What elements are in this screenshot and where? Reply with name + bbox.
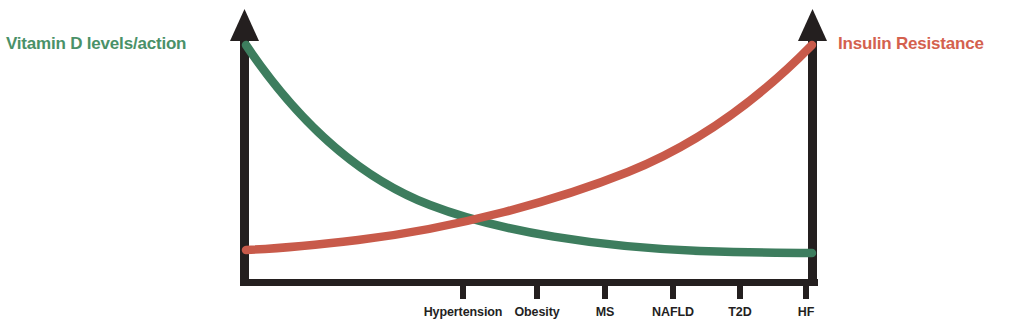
left-axis-arrow-icon [230, 9, 259, 41]
left-axis-title: Vitamin D levels/action [6, 34, 186, 54]
right-axis-title: Insulin Resistance [838, 34, 984, 54]
chart-figure: Vitamin D levels/action Insulin Resistan… [0, 0, 1012, 325]
tick-mark [534, 286, 540, 299]
x-axis-baseline [240, 279, 818, 286]
tick-label-obesity: Obesity [514, 305, 559, 319]
x-axis-ticks [460, 286, 809, 299]
right-axis-arrow-icon [798, 9, 827, 41]
tick-mark [602, 286, 608, 299]
tick-label-hf: HF [798, 305, 814, 319]
tick-mark [670, 286, 676, 299]
tick-label-t2d: T2D [728, 305, 751, 319]
tick-label-hypertension: Hypertension [424, 305, 503, 319]
tick-mark [460, 286, 466, 299]
tick-label-nafld: NAFLD [652, 305, 694, 319]
tick-label-ms: MS [596, 305, 615, 319]
tick-mark [803, 286, 809, 299]
series-line-vitamin-d [246, 45, 812, 253]
tick-mark [737, 286, 743, 299]
